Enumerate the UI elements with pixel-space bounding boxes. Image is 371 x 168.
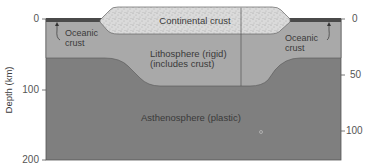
asthenosphere-label: Asthenosphere (plastic) <box>141 112 241 123</box>
right-axis-label-100: 100 <box>346 125 363 136</box>
continental-crust-label: Continental crust <box>159 15 231 26</box>
oceanic-crust-left-label-line1: Oceanic <box>65 28 99 38</box>
oceanic-crust-left <box>46 18 102 22</box>
oceanic-crust-left-label-line2: crust <box>65 38 85 48</box>
oceanic-crust-right-label-line1: Oceanic <box>285 33 319 43</box>
left-axis-label-0: 0 <box>33 13 39 24</box>
lithosphere-diagram: 0 100 200 Depth (km) 0 50 100 Continenta… <box>0 0 371 168</box>
oceanic-crust-right-label-line2: crust <box>285 43 305 53</box>
right-axis-label-50: 50 <box>350 69 362 80</box>
left-axis-label-200: 200 <box>22 154 39 165</box>
lithosphere-label-line2: (includes crust) <box>150 58 214 69</box>
right-axis-label-0: 0 <box>352 13 358 24</box>
left-axis-label-100: 100 <box>22 84 39 95</box>
left-axis-title: Depth (km) <box>3 67 14 114</box>
oceanic-crust-right <box>288 18 341 22</box>
